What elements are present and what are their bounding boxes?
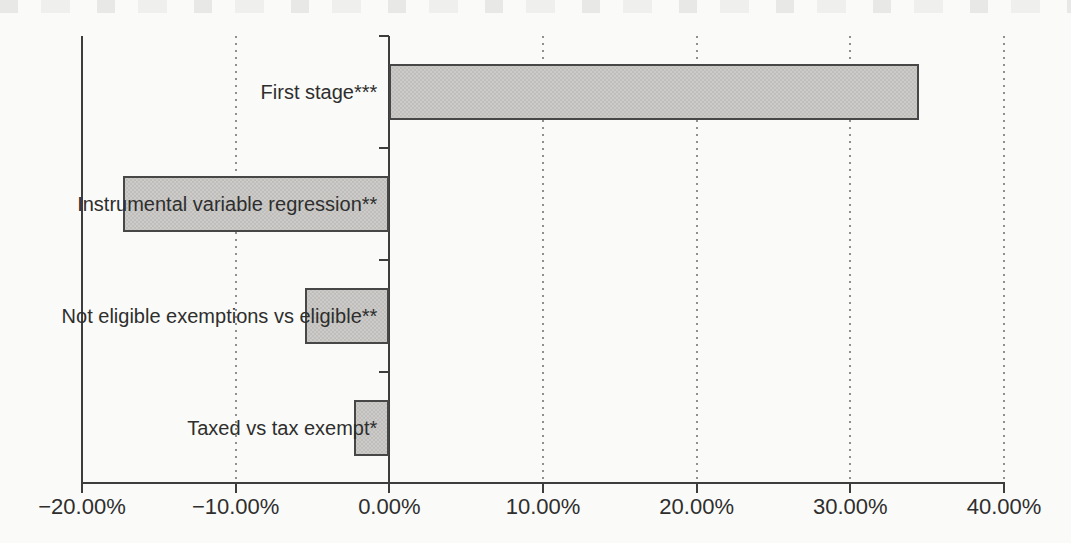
category-boundary-tick (379, 371, 389, 373)
zero-axis-end-tick (379, 35, 389, 37)
category-boundary-tick (379, 147, 389, 149)
x-tick-label-10pct: 10.00% (506, 495, 581, 519)
category-boundary-tick (379, 259, 389, 261)
x-tick-label-0pct: 0.00% (358, 495, 420, 519)
x-tick-label--20pct: −20.00% (38, 495, 125, 519)
bar-1 (389, 64, 919, 120)
x-tick-label-40pct: 40.00% (967, 495, 1042, 519)
x-tick--20pct (81, 484, 83, 493)
x-tick-40pct (1003, 484, 1005, 493)
x-tick-30pct (849, 484, 851, 493)
x-tick-20pct (696, 484, 698, 493)
category-label-4: Taxed vs tax exempt* (0, 418, 377, 438)
x-tick-label-30pct: 30.00% (813, 495, 888, 519)
bar-chart-figure: −20.00%−10.00%0.00%10.00%20.00%30.00%40.… (0, 0, 1071, 543)
category-label-3: Not eligible exemptions vs eligible** (0, 306, 377, 326)
x-tick-label-20pct: 20.00% (659, 495, 734, 519)
x-tick--10pct (235, 484, 237, 493)
gridline--10pct (235, 36, 237, 483)
x-tick-label--10pct: −10.00% (192, 495, 279, 519)
category-label-2: Instrumental variable regression** (0, 194, 377, 214)
plot-left-border (81, 36, 83, 484)
gridline-40pct (1003, 36, 1005, 483)
x-tick-0pct (388, 484, 390, 493)
x-tick-10pct (542, 484, 544, 493)
category-label-1: First stage*** (0, 82, 377, 102)
scan-artifact-band (0, 0, 1071, 13)
